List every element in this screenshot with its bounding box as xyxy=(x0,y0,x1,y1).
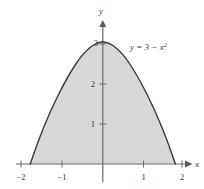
x-tick-label--2: −2 xyxy=(16,172,25,182)
y-tick-label-3: 3 xyxy=(94,38,98,48)
chart-canvas: y x −2 −1 1 2 1 2 3 y = 3 − x2 xyxy=(0,0,204,189)
parabola-figure: y x −2 −1 1 2 1 2 3 y = 3 − x2 xyxy=(0,0,204,189)
curve-equation-exponent: 2 xyxy=(164,42,167,48)
x-tick-label-2: 2 xyxy=(180,172,184,182)
x-tick-label--1: −1 xyxy=(57,172,66,182)
x-axis-title: x xyxy=(194,159,199,169)
curve-equation-base: y = 3 − x xyxy=(129,42,164,52)
y-tick-label-1: 1 xyxy=(91,119,95,129)
y-axis-title: y xyxy=(98,6,103,16)
x-tick-label-1: 1 xyxy=(141,172,145,182)
y-tick-label-2: 2 xyxy=(91,79,95,89)
curve-equation-label: y = 3 − x2 xyxy=(129,42,167,52)
